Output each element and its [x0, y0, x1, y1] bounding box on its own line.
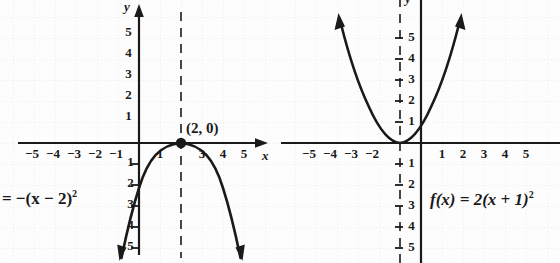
x-axis-name-left: x	[262, 148, 269, 164]
y-tick-label: 2	[405, 92, 418, 108]
y-tick-label: 3	[122, 66, 135, 82]
y-axis-name-right: y	[405, 0, 411, 7]
equation-label-right: f(x) = 2(x + 1)2	[430, 189, 534, 210]
x-tick-label: −5	[300, 146, 318, 162]
x-tick-label: 1	[435, 146, 449, 162]
figure-canvas: −5 −4 −3 −2 −1 1 3 4 5 1 2 3 4 5 1 2 3 4…	[0, 0, 560, 263]
x-tick-label: −4	[44, 146, 62, 162]
y-tick-label: 3	[405, 197, 418, 213]
y-tick-label: 5	[122, 24, 135, 40]
y-tick-label: 4	[122, 45, 135, 61]
vertex-dot-left	[176, 138, 186, 148]
x-tick-label: 4	[216, 146, 230, 162]
vertex-annotation-left: (2, 0)	[186, 120, 219, 137]
x-tick-label: 3	[195, 146, 209, 162]
downward-parabola-panel: −5 −4 −3 −2 −1 1 3 4 5 1 2 3 4 5 1 2 3 4…	[0, 0, 281, 263]
y-tick-label: 1	[122, 108, 135, 124]
y-tick-label: 3	[405, 71, 418, 87]
equation-exponent-right: 2	[529, 189, 534, 200]
y-axis-name-left: y	[124, 0, 130, 15]
y-tick-label: 1	[405, 113, 418, 129]
x-tick-label: −1	[107, 146, 125, 162]
x-tick-label: −3	[65, 146, 83, 162]
y-tick-label: 5	[405, 239, 418, 255]
x-tick-label: −4	[321, 146, 339, 162]
x-tick-label: 4	[498, 146, 512, 162]
equation-exponent-left: 2	[72, 188, 77, 199]
y-tick-label: 5	[405, 29, 418, 45]
y-tick-label: 1	[405, 155, 418, 171]
y-tick-label: 3	[124, 196, 137, 212]
equation-label-left: ) = −(x − 2)2	[0, 188, 77, 209]
left-plot-svg	[0, 0, 281, 263]
right-plot-svg	[281, 0, 560, 263]
x-tick-label: 5	[237, 146, 251, 162]
equation-function-name-right: f(x) = 2(x + 1)	[430, 190, 529, 209]
dotted-grid-left	[0, 0, 281, 263]
x-tick-label: −3	[342, 146, 360, 162]
y-tick-label: 2	[405, 176, 418, 192]
upward-parabola-panel: −5 −4 −3 −2 1 2 3 4 5 1 2 3 4 5 1 2 3 4 …	[281, 0, 560, 263]
y-tick-label: 2	[122, 87, 135, 103]
x-tick-label: 5	[519, 146, 533, 162]
equation-text-left: ) = −(x − 2)	[0, 189, 72, 208]
x-tick-label: −2	[363, 146, 381, 162]
x-tick-label: 2	[456, 146, 470, 162]
x-tick-label: 3	[477, 146, 491, 162]
x-tick-label: −5	[23, 146, 41, 162]
y-tick-label: 1	[124, 154, 137, 170]
y-tick-label: 5	[124, 238, 137, 254]
y-tick-label: 4	[405, 50, 418, 66]
x-tick-label: 1	[153, 146, 167, 162]
y-tick-label: 2	[124, 175, 137, 191]
x-tick-label: −2	[86, 146, 104, 162]
y-tick-label: 4	[405, 218, 418, 234]
y-tick-label: 4	[124, 217, 137, 233]
